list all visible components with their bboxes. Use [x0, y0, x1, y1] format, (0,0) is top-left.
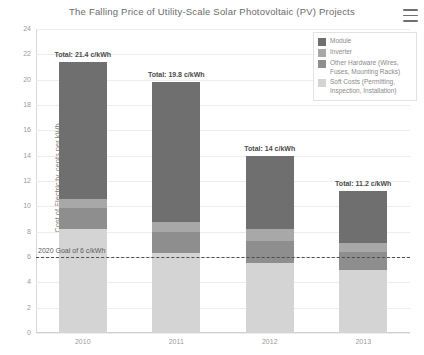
hamburger-menu-icon[interactable]	[403, 9, 418, 22]
bar-group-2010[interactable]: Total: 21.4 c/kWh2010	[59, 62, 107, 333]
bar-segment[interactable]	[152, 82, 200, 221]
x-tick-label: 2012	[262, 338, 278, 345]
bar-segment[interactable]	[339, 191, 387, 243]
reference-line-label: 2020 Goal of 6 c/kWh	[38, 247, 105, 254]
y-tick-label: 4	[14, 278, 31, 285]
bar-segment[interactable]	[152, 232, 200, 254]
bar-segment[interactable]	[339, 270, 387, 333]
bar-total-label: Total: 11.2 c/kWh	[335, 180, 391, 187]
bar-segment[interactable]	[246, 229, 294, 240]
legend-item-1[interactable]: Inverter	[318, 48, 412, 57]
bar-segment[interactable]	[152, 253, 200, 333]
legend-item-0[interactable]: Module	[318, 37, 412, 46]
menu-line-2	[403, 15, 418, 17]
legend-swatch-icon	[318, 38, 326, 46]
y-tick-label: 6	[14, 253, 31, 260]
bar-segment[interactable]	[152, 222, 200, 232]
y-tick-label: 8	[14, 228, 31, 235]
y-tick-label: 18	[14, 101, 31, 108]
legend-swatch-icon	[318, 49, 326, 57]
x-tick-label: 2011	[169, 338, 184, 345]
bar-group-2011[interactable]: Total: 19.8 c/kWh2011	[152, 82, 200, 333]
legend-item-2[interactable]: Other Hardware (Wires, Fuses, Mounting R…	[318, 59, 412, 76]
menu-line-3	[403, 20, 418, 22]
x-tick-label: 2010	[75, 338, 91, 345]
bar-segment[interactable]	[246, 263, 294, 333]
bar-group-2012[interactable]: Total: 14 c/kWh2012	[246, 156, 294, 333]
bar-segment[interactable]	[246, 241, 294, 264]
y-tick-label: 12	[14, 177, 31, 184]
y-tick-label: 10	[14, 202, 31, 209]
gridline	[36, 29, 410, 30]
bar-total-label: Total: 14 c/kWh	[244, 145, 295, 152]
bar-segment[interactable]	[339, 243, 387, 252]
x-tick-label: 2013	[355, 338, 371, 345]
bar-segment[interactable]	[246, 156, 294, 229]
y-tick-label: 0	[14, 329, 31, 336]
legend-label: Module	[330, 37, 351, 46]
y-tick-label: 22	[14, 50, 31, 57]
bar-segment[interactable]	[59, 208, 107, 230]
menu-line-1	[403, 9, 418, 11]
bar-group-2013[interactable]: Total: 11.2 c/kWh2013	[339, 191, 387, 333]
page-title: The Falling Price of Utility-Scale Solar…	[0, 6, 424, 17]
legend-label: Other Hardware (Wires, Fuses, Mounting R…	[330, 59, 412, 76]
legend-swatch-icon	[318, 60, 326, 68]
y-tick-label: 24	[14, 25, 31, 32]
bar-segment[interactable]	[59, 62, 107, 199]
y-tick-label: 16	[14, 126, 31, 133]
bar-segment[interactable]	[339, 252, 387, 270]
reference-line	[36, 257, 410, 258]
bar-segment[interactable]	[59, 199, 107, 208]
y-tick-label: 20	[14, 76, 31, 83]
legend-item-3[interactable]: Soft Costs (Permitting, Inspection, Inst…	[318, 78, 412, 95]
bar-total-label: Total: 21.4 c/kWh	[54, 51, 111, 58]
legend-swatch-icon	[318, 79, 326, 87]
y-tick-label: 2	[14, 304, 31, 311]
chart-legend: ModuleInverterOther Hardware (Wires, Fus…	[313, 32, 417, 101]
gridline	[36, 333, 410, 334]
y-tick-label: 14	[14, 152, 31, 159]
bar-segment[interactable]	[59, 229, 107, 333]
legend-label: Soft Costs (Permitting, Inspection, Inst…	[330, 78, 412, 95]
bar-total-label: Total: 19.8 c/kWh	[148, 71, 205, 78]
legend-label: Inverter	[330, 48, 352, 57]
